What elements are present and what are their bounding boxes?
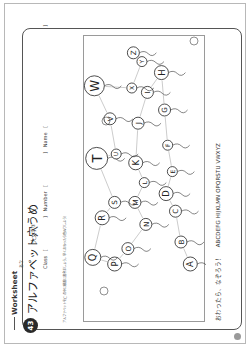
page-title: アルファベット穴うめ [24, 204, 40, 314]
sequence-arrow [138, 209, 143, 218]
svg-text:U: U [112, 152, 119, 156]
lesson-number-badge: 43 [23, 318, 38, 333]
sequence-arrow [184, 248, 187, 256]
balloon-h[interactable]: H [154, 66, 185, 80]
balloon-y[interactable]: Y [137, 57, 164, 67]
class-label: Class [42, 256, 48, 269]
svg-text:E: E [169, 169, 176, 173]
name-label: Name [42, 132, 48, 147]
balloon-chain-illustration: ABCDEFGHIJKLMNOPQRSTUVWXYZ [84, 34, 206, 321]
class-field-close: ] [42, 216, 48, 218]
instruction-text: アルファベットを◯の中に順番に書きましょう。早くおわったら色ぬりしよう！ [62, 214, 67, 323]
sequence-arrow [99, 96, 107, 113]
balloon-a[interactable]: A [183, 257, 206, 271]
trace-prompt: おわったら、なぞろう！ [215, 255, 221, 321]
number-label: Number [42, 191, 48, 211]
svg-text:X: X [128, 86, 135, 90]
balloon-v[interactable]: V [104, 113, 133, 125]
svg-text:R: R [97, 215, 107, 221]
sequence-arrow [101, 170, 112, 196]
balloon-w[interactable]: W [84, 76, 121, 96]
svg-text:K: K [131, 160, 141, 166]
sequence-arrow [95, 226, 100, 249]
sequence-arrow [177, 218, 180, 235]
sequence-arrow [162, 81, 164, 103]
sequence-arrow [139, 170, 142, 177]
page-marker-icon [234, 333, 241, 340]
sequence-arrow [111, 126, 115, 148]
student-info-fields: Class [ ] Number [ ] Name [ ] [42, 22, 48, 269]
trace-alphabet: ABCDEFG HIJKLMN OPQRSTU VWXYZ [215, 143, 221, 247]
balloon-f[interactable]: F [163, 140, 190, 150]
svg-text:P: P [110, 261, 120, 266]
svg-text:L: L [141, 180, 148, 184]
balloon-c[interactable]: C [169, 205, 198, 217]
svg-text:D: D [161, 190, 171, 196]
svg-text:G: G [160, 107, 169, 113]
sequence-arrow [105, 86, 125, 87]
svg-text:A: A [185, 261, 195, 267]
balloon-l[interactable]: L [139, 178, 166, 188]
svg-text:I: I [143, 91, 152, 93]
balloon-g[interactable]: G [159, 104, 188, 116]
svg-text:B: B [177, 239, 186, 244]
balloon-d[interactable]: D [159, 187, 190, 201]
svg-text:S: S [110, 200, 119, 205]
balloon-p[interactable]: P [108, 257, 139, 271]
balloon-n[interactable]: N [140, 218, 169, 230]
balloon-k[interactable]: K [129, 156, 160, 170]
sequence-arrow [138, 188, 142, 196]
balloon-o[interactable]: O [122, 243, 151, 255]
worksheet-page: Worksheet 43 あな アルファベット穴うめ 大文字③ Class [ … [0, 0, 252, 347]
svg-text:N: N [142, 222, 151, 227]
balloon-i[interactable]: I [141, 86, 170, 98]
sequence-arrow [101, 260, 107, 262]
balloon-j[interactable]: J [132, 117, 161, 129]
sequence-arrow [134, 67, 140, 82]
svg-text:Z: Z [129, 50, 138, 55]
sequence-arrow [107, 208, 110, 212]
sequence-arrow [168, 177, 170, 186]
worksheet-label: Worksheet [11, 269, 19, 317]
sequence-arrow [169, 151, 172, 166]
svg-text:F: F [164, 143, 171, 147]
sequence-arrow [151, 79, 156, 87]
svg-text:T: T [90, 153, 105, 163]
animal-doodle-icon [190, 37, 198, 45]
balloon-e[interactable]: E [167, 167, 194, 177]
svg-text:W: W [88, 80, 102, 92]
alphabet-trace-row: おわったら、なぞろう！ ABCDEFG HIJKLMN OPQRSTU VWXY… [214, 143, 222, 321]
svg-text:Q: Q [87, 253, 98, 261]
svg-text:O: O [124, 245, 133, 251]
number-field-close: ] [42, 152, 48, 154]
page-subtitle: 大文字③ [29, 224, 36, 243]
svg-text:H: H [157, 69, 167, 75]
sequence-arrow [136, 130, 137, 155]
arrow-icon [14, 316, 15, 330]
number-field-open[interactable]: [ [42, 185, 48, 187]
sequence-arrow [170, 201, 172, 205]
sequence-arrow [165, 117, 167, 139]
name-field-close: ] [42, 25, 48, 27]
class-field-open[interactable]: [ [42, 249, 48, 251]
alphabet-balloon-diagram: ABCDEFGHIJKLMNOPQRSTUVWXYZ [83, 35, 205, 322]
balloon-b[interactable]: B [175, 236, 204, 248]
balloon-r[interactable]: R [95, 211, 126, 225]
svg-text:C: C [171, 209, 180, 214]
sequence-arrow [132, 230, 142, 243]
animal-doodle-icon [100, 287, 108, 295]
name-field-open[interactable]: [ [42, 126, 48, 128]
sequence-arrow [120, 254, 123, 258]
balloon-m[interactable]: M [129, 196, 158, 208]
sequence-arrow [140, 99, 145, 116]
